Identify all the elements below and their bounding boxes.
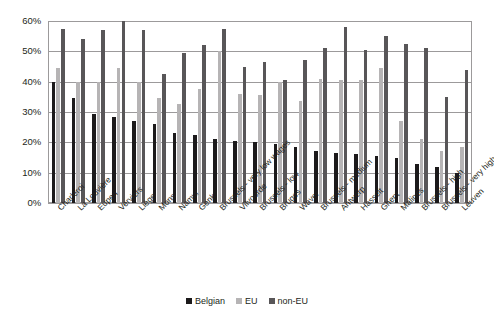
legend-item[interactable]: non-EU xyxy=(269,297,309,306)
x-axis-labels: CharleroiLa LouvièreEupenVerviersLiègeMo… xyxy=(48,206,472,290)
bar xyxy=(198,89,202,203)
x-axis-tick-label: Liège xyxy=(137,206,143,212)
x-axis-tick-label: Brussels - medium xyxy=(319,206,325,212)
bar xyxy=(303,60,307,203)
legend-label: EU xyxy=(245,297,258,306)
x-axis-tick-label: Hasselt xyxy=(359,206,365,212)
x-axis-tick-label: Antwerp xyxy=(339,206,345,212)
bar xyxy=(117,68,121,203)
y-axis-tick-label: 40% xyxy=(22,77,41,87)
bar-group xyxy=(68,21,88,203)
bar xyxy=(424,48,428,203)
y-axis-tick-label: 20% xyxy=(22,137,41,147)
bar-group xyxy=(48,21,68,203)
x-axis-tick-label: Brussels - very high xyxy=(440,206,446,212)
bar xyxy=(384,36,388,203)
bar-group xyxy=(371,21,391,203)
x-axis-tick-label: Malines xyxy=(399,206,405,212)
x-axis-tick-label: Brussels - high xyxy=(420,206,426,212)
legend-item[interactable]: EU xyxy=(236,297,258,306)
y-axis-tick-label: 0% xyxy=(27,198,41,208)
legend-swatch-icon xyxy=(186,298,192,304)
bar xyxy=(157,98,161,203)
bar-group xyxy=(149,21,169,203)
bar xyxy=(81,39,85,203)
x-axis-tick-label: Leuven xyxy=(460,206,466,212)
bar xyxy=(122,21,126,203)
bar xyxy=(319,79,323,203)
bar xyxy=(404,44,408,203)
y-axis-tick-label: 60% xyxy=(22,16,41,26)
bar xyxy=(299,101,303,203)
y-axis: 0%10%20%30%40%50%60% xyxy=(0,0,48,204)
bar-group xyxy=(210,21,230,203)
x-axis-tick-label: Genk xyxy=(197,206,203,212)
legend-swatch-icon xyxy=(269,298,275,304)
x-axis-tick-label: Brussels - very low wages xyxy=(218,206,224,212)
x-axis-tick-label: Waver xyxy=(298,206,304,212)
bar-group xyxy=(391,21,411,203)
bar xyxy=(56,68,60,203)
bar-group xyxy=(129,21,149,203)
x-axis-tick-label: Charleroi xyxy=(56,206,62,212)
bar-group xyxy=(411,21,431,203)
bar xyxy=(173,133,177,203)
bar xyxy=(202,45,206,203)
legend-label: non-EU xyxy=(278,297,309,306)
bar xyxy=(222,29,226,203)
bar xyxy=(61,29,65,203)
bar-group xyxy=(109,21,129,203)
legend-item[interactable]: Belgian xyxy=(186,297,225,306)
bar xyxy=(379,68,383,203)
bar xyxy=(263,62,267,203)
x-axis-tick-label: Verviers xyxy=(117,206,123,212)
bar-chart: 0%10%20%30%40%50%60% CharleroiLa Louvièr… xyxy=(0,0,494,323)
x-axis-tick-label: Brussels - low xyxy=(258,206,264,212)
x-axis-tick-label: Vilvoorde xyxy=(238,206,244,212)
bar xyxy=(323,48,327,203)
bar xyxy=(182,53,186,203)
bar-group xyxy=(169,21,189,203)
bar xyxy=(153,124,157,203)
bar xyxy=(177,104,181,203)
x-axis-tick-label: Bruges xyxy=(278,206,284,212)
bar xyxy=(52,82,56,203)
legend-label: Belgian xyxy=(195,297,225,306)
x-axis-tick-label: Eupen xyxy=(96,206,102,212)
bar-group xyxy=(189,21,209,203)
chart-legend: BelgianEUnon-EU xyxy=(0,293,494,309)
y-axis-tick-label: 30% xyxy=(22,107,41,117)
bar xyxy=(218,51,222,203)
bar xyxy=(399,121,403,203)
legend-swatch-icon xyxy=(236,298,242,304)
bar xyxy=(142,30,146,203)
bar-group xyxy=(310,21,330,203)
bar xyxy=(162,74,166,203)
bar xyxy=(364,50,368,203)
y-axis-tick-label: 50% xyxy=(22,46,41,56)
x-axis-tick-label: Mons xyxy=(157,206,163,212)
x-axis-tick-label: Namur xyxy=(177,206,183,212)
x-axis-tick-label: Ghent xyxy=(379,206,385,212)
y-axis-tick-label: 10% xyxy=(22,168,41,178)
x-axis-tick-label: La Louvière xyxy=(76,206,82,212)
